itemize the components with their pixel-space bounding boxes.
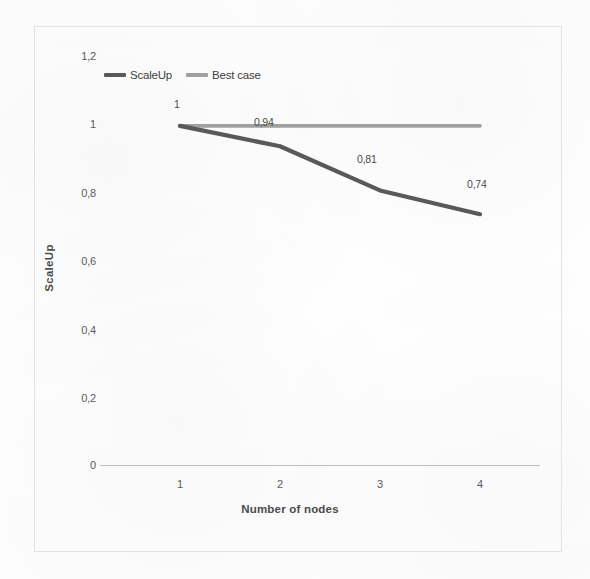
legend-item-best-case[interactable]: Best case <box>186 69 261 81</box>
x-tick-label-2: 2 <box>265 478 295 490</box>
legend-label-scaleup: ScaleUp <box>130 69 172 81</box>
chart-legend: ScaleUp Best case <box>104 69 261 81</box>
y-axis-title: ScaleUp <box>43 213 55 323</box>
chart-canvas <box>0 0 590 579</box>
data-label-node-2: 0,94 <box>254 116 274 128</box>
x-axis-title: Number of nodes <box>180 503 400 515</box>
legend-item-scaleup[interactable]: ScaleUp <box>104 69 172 81</box>
y-tick-label-0-2: 0,2 <box>62 392 96 404</box>
legend-label-best-case: Best case <box>212 69 261 81</box>
x-tick-label-4: 4 <box>465 478 495 490</box>
data-label-node-1: 1 <box>174 98 180 110</box>
x-tick-label-3: 3 <box>365 478 395 490</box>
legend-swatch-icon-scaleup <box>104 73 126 77</box>
y-tick-label-0-8: 0,8 <box>62 187 96 199</box>
data-label-node-4: 0,74 <box>467 178 487 190</box>
y-tick-label-0-6: 0,6 <box>62 255 96 267</box>
y-tick-label-1-2: 1,2 <box>62 50 96 62</box>
legend-swatch-icon-best-case <box>186 73 208 77</box>
y-tick-label-0-4: 0,4 <box>62 324 96 336</box>
data-label-node-3: 0,81 <box>357 153 377 165</box>
y-tick-label-1: 1 <box>62 118 96 130</box>
series-line-scaleup <box>180 126 480 214</box>
y-tick-label-0: 0 <box>62 459 96 471</box>
x-tick-label-1: 1 <box>165 478 195 490</box>
